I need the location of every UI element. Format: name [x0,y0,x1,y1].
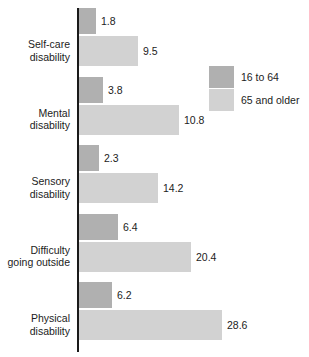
bar-row: 6.2 [79,282,309,308]
category-label: Mentaldisability [0,107,70,132]
legend-item[interactable]: 16 to 64 [209,66,307,88]
category-label-line1: Sensory [31,175,70,187]
bar-row: 28.6 [79,310,309,340]
bar-value-label: 10.8 [179,114,204,126]
bar-16-to-64 [79,282,112,308]
bar-value-label: 14.2 [158,182,183,194]
bar-value-label: 6.2 [112,289,132,301]
category-label: Sensorydisability [0,175,70,200]
bar-row: 14.2 [79,173,309,203]
bar-value-label: 28.6 [222,319,247,331]
bar-row: 2.3 [79,145,309,171]
bar-value-label: 9.5 [138,45,158,57]
category-label: Difficultygoing outside [0,244,70,269]
category-label: Self-caredisability [0,38,70,63]
bar-65-and-older [79,173,158,203]
bar-65-and-older [79,242,191,272]
bar-65-and-older [79,36,138,66]
category-label-line1: Mental [38,107,70,119]
bar-16-to-64 [79,145,99,171]
bar-value-label: 2.3 [99,152,119,164]
bar-value-label: 3.8 [103,84,123,96]
category-label-line1: Self-care [28,38,70,50]
bar-16-to-64 [79,214,118,240]
bar-chart: Self-caredisability1.89.5Mentaldisabilit… [0,0,309,357]
bar-16-to-64 [79,8,96,34]
category-label-line2: going outside [0,256,70,269]
legend-swatch-65-and-older [209,89,234,111]
category-label-line1: Difficulty [31,244,70,256]
bar-row: 1.8 [79,8,309,34]
category-label-line2: disability [0,325,70,338]
bar-65-and-older [79,310,222,340]
plot-area: Self-caredisability1.89.5Mentaldisabilit… [0,0,309,357]
chart-legend: 16 to 6465 and older [209,66,307,112]
bar-value-label: 1.8 [96,15,116,27]
category-label-line1: Physical [31,312,70,324]
bar-65-and-older [79,105,179,135]
bar-value-label: 6.4 [118,221,138,233]
bar-row: 20.4 [79,242,309,272]
category-label-line2: disability [0,188,70,201]
legend-item[interactable]: 65 and older [209,89,307,111]
legend-label: 65 and older [241,94,299,106]
bar-value-label: 20.4 [191,251,216,263]
bar-row: 9.5 [79,36,309,66]
legend-swatch-16-to-64 [209,66,234,88]
category-label: Physicaldisability [0,312,70,337]
legend-label: 16 to 64 [241,71,279,83]
category-label-line2: disability [0,119,70,132]
category-label-line2: disability [0,51,70,64]
bar-row: 6.4 [79,214,309,240]
bar-16-to-64 [79,77,103,103]
